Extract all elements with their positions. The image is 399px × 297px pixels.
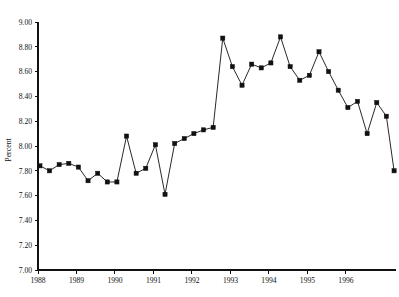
x-axis-ticks: 198819891990199119921993199419951996 [30, 270, 353, 285]
y-tick-label: 7.00 [19, 266, 32, 275]
data-point-marker [38, 164, 42, 168]
x-tick-label: 1994 [261, 276, 276, 285]
x-tick-label: 1993 [223, 276, 238, 285]
data-point-marker [182, 136, 186, 140]
data-point-marker [298, 78, 302, 82]
data-point-marker [67, 161, 71, 165]
axes-group [38, 22, 396, 270]
x-tick-label: 1990 [107, 276, 122, 285]
data-point-marker [47, 169, 51, 173]
data-point-marker [134, 171, 138, 175]
data-point-marker [153, 143, 157, 147]
data-point-marker [96, 171, 100, 175]
x-tick-label: 1991 [146, 276, 161, 285]
data-point-marker [211, 125, 215, 129]
data-point-marker [259, 66, 263, 70]
data-point-marker [336, 88, 340, 92]
data-point-marker [105, 180, 109, 184]
data-point-marker [250, 62, 254, 66]
y-tick-label: 8.20 [19, 117, 32, 126]
y-axis-title: Percent [4, 137, 13, 161]
data-point-marker [317, 50, 321, 54]
data-series-line [40, 37, 394, 194]
data-point-marker [278, 35, 282, 39]
data-point-marker [240, 83, 244, 87]
y-tick-label: 8.00 [19, 142, 32, 151]
data-point-marker [115, 180, 119, 184]
data-point-marker [384, 114, 388, 118]
x-tick-label: 1992 [184, 276, 199, 285]
x-tick-label: 1996 [338, 276, 353, 285]
data-point-marker [173, 141, 177, 145]
y-tick-label: 7.20 [19, 241, 32, 250]
data-point-marker [392, 169, 396, 173]
data-point-marker [288, 65, 292, 69]
data-point-marker [365, 132, 369, 136]
data-point-marker [375, 101, 379, 105]
y-tick-label: 7.80 [19, 167, 32, 176]
data-point-marker [221, 36, 225, 40]
y-tick-label: 8.80 [19, 43, 32, 52]
data-point-marker [327, 70, 331, 74]
data-point-marker [269, 61, 273, 65]
data-point-marker [230, 65, 234, 69]
data-point-marker [201, 128, 205, 132]
y-axis-ticks: 7.007.207.407.607.808.008.208.408.608.80… [19, 18, 38, 275]
x-tick-label: 1989 [69, 276, 84, 285]
data-point-marker [355, 99, 359, 103]
y-tick-label: 7.60 [19, 191, 32, 200]
x-tick-label: 1995 [300, 276, 315, 285]
x-tick-label: 1988 [30, 276, 45, 285]
data-point-marker [124, 134, 128, 138]
data-point-marker [144, 166, 148, 170]
data-point-marker [76, 165, 80, 169]
data-point-marker [307, 73, 311, 77]
data-point-marker [192, 132, 196, 136]
y-tick-label: 9.00 [19, 18, 32, 27]
data-point-marker [57, 163, 61, 167]
y-tick-label: 8.40 [19, 92, 32, 101]
line-chart-plot: 7.007.207.407.607.808.008.208.408.608.80… [0, 0, 399, 297]
y-tick-label: 7.40 [19, 216, 32, 225]
data-point-marker [346, 105, 350, 109]
chart-container: 7.007.207.407.607.808.008.208.408.608.80… [0, 0, 399, 297]
data-point-markers [38, 35, 396, 197]
data-point-marker [163, 192, 167, 196]
y-tick-label: 8.60 [19, 67, 32, 76]
data-point-marker [86, 179, 90, 183]
